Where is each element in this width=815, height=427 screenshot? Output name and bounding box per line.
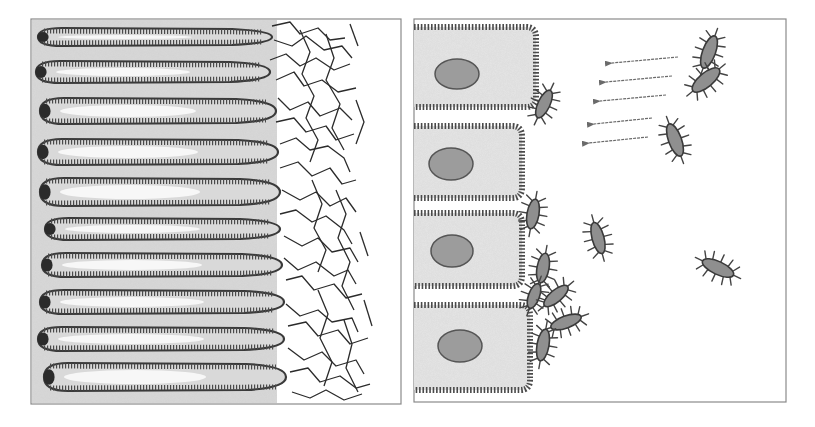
- diagram-canvas: [0, 0, 815, 427]
- villus-core: [64, 370, 206, 384]
- nucleus: [435, 59, 479, 89]
- villus-tip: [37, 32, 48, 42]
- villus: [43, 363, 286, 391]
- villus-core: [56, 68, 190, 76]
- villus-tip: [39, 295, 50, 308]
- villus-core: [60, 105, 196, 117]
- villus-core: [58, 35, 192, 39]
- right-panel-epithelium: [414, 19, 786, 402]
- villus-core: [60, 185, 200, 199]
- villus-core: [60, 297, 204, 307]
- nucleus: [429, 148, 473, 180]
- villus: [37, 327, 284, 351]
- villus-tip: [37, 145, 48, 159]
- villus-tip: [39, 184, 50, 199]
- villus-core: [65, 225, 200, 233]
- villus: [41, 253, 282, 277]
- villus: [35, 61, 270, 83]
- villus-tip: [43, 369, 54, 384]
- villus-tip: [37, 332, 48, 345]
- figure: [0, 0, 815, 427]
- villus: [39, 178, 280, 206]
- nucleus: [438, 330, 482, 362]
- villus: [39, 98, 276, 124]
- villus-core: [62, 260, 202, 270]
- villus: [37, 28, 272, 46]
- villus-core: [58, 334, 204, 344]
- villus-tip: [35, 66, 46, 78]
- nucleus: [431, 235, 473, 267]
- villus-core: [58, 146, 198, 158]
- villus: [37, 139, 278, 165]
- villus-tip: [39, 104, 50, 118]
- left-panel-villi: [31, 19, 401, 404]
- villus-tip: [44, 223, 55, 235]
- villus: [39, 290, 284, 314]
- villus: [44, 218, 280, 240]
- villus-tip: [41, 258, 52, 271]
